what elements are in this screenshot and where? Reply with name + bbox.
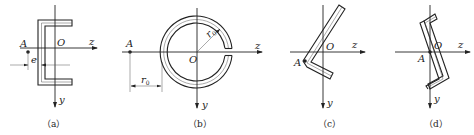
z-section-outline bbox=[424, 14, 449, 89]
label-a: A bbox=[125, 38, 133, 49]
panel-a: A O z y e （a） bbox=[10, 5, 97, 129]
label-y: y bbox=[58, 94, 65, 105]
label-r0-radius: r0 bbox=[203, 26, 218, 41]
label-o: O bbox=[189, 54, 197, 65]
label-o: O bbox=[434, 40, 442, 51]
label-z: z bbox=[254, 40, 261, 51]
label-z: z bbox=[88, 36, 95, 47]
label-y: y bbox=[326, 97, 333, 108]
caption-c: （c） bbox=[318, 119, 341, 129]
label-z: z bbox=[457, 39, 464, 50]
label-y: y bbox=[433, 93, 440, 104]
caption-d: （d） bbox=[424, 119, 448, 129]
label-o: O bbox=[57, 37, 65, 48]
label-e: e bbox=[31, 54, 37, 65]
label-a: A bbox=[293, 57, 301, 68]
label-r0-dimension: r0 bbox=[141, 74, 150, 86]
angle-outline bbox=[303, 5, 345, 79]
figure-canvas: A O z y e （a） A O z y r0 r0 （b） bbox=[0, 0, 474, 135]
label-o: O bbox=[326, 41, 334, 52]
label-a: A bbox=[417, 53, 425, 64]
point-a bbox=[303, 59, 307, 63]
caption-a: （a） bbox=[42, 119, 65, 129]
panel-b: A O z y r0 r0 （b） bbox=[122, 8, 262, 129]
label-y: y bbox=[201, 99, 208, 110]
label-a: A bbox=[19, 38, 27, 49]
label-z: z bbox=[351, 39, 358, 50]
channel-centerline bbox=[42, 23, 73, 82]
panel-d: A O z y （d） bbox=[395, 5, 470, 129]
caption-b: （b） bbox=[188, 119, 212, 129]
point-a bbox=[428, 50, 432, 54]
panel-c: A O z y （c） bbox=[290, 5, 365, 129]
